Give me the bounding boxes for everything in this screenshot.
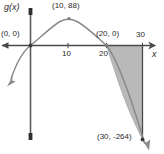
x-tick-label-20: 20 [99,50,108,58]
y-axis-bottom-cap [29,133,33,140]
shaded-region [107,46,143,140]
y-axis-top-cap [29,8,33,15]
y-axis-label: g(x) [4,3,20,12]
curve-arrow-lower-right [143,139,151,150]
x-tick-label-10: 10 [62,50,71,58]
x-tick-label-30: 30 [136,31,145,39]
x-axis-label: x [152,50,157,59]
graph-canvas [0,0,164,154]
point-x-intercept [105,44,108,47]
point-endpoint [141,138,145,142]
point-label-x-intercept: (20, 0) [96,30,119,38]
x-axis-left-arrow [2,42,9,48]
point-label-maximum: (10, 88) [52,2,80,10]
point-label-endpoint: (30, -264) [97,133,132,141]
point-label-origin: (0, 0) [1,30,20,38]
graph-figure: g(x) x (0, 0) (10, 88) (20, 0) (30, -264… [0,0,164,154]
point-origin [29,44,33,48]
point-maximum [67,17,70,20]
